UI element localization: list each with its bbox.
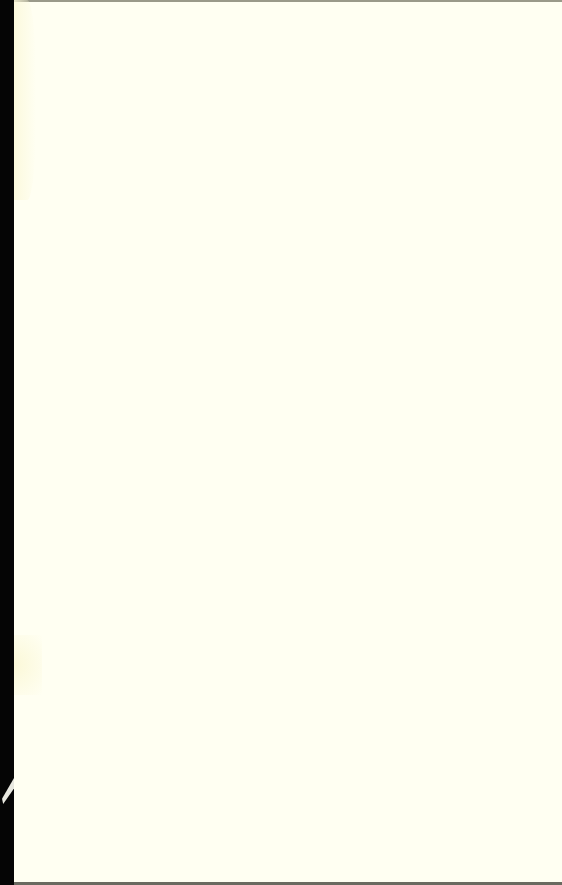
page-top-edge (14, 0, 562, 2)
paper-stain-lower (14, 635, 42, 695)
paper-stain (14, 0, 36, 200)
scan-margin-strip (0, 0, 14, 885)
blank-page (14, 1, 562, 883)
